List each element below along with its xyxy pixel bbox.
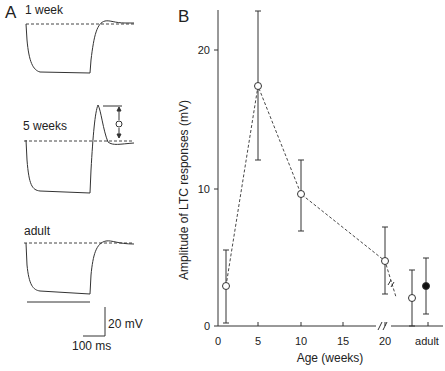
trace-1-week [26, 21, 134, 73]
trace-adult [24, 241, 134, 302]
scale-bar [83, 307, 105, 336]
trace-5-weeks [24, 105, 134, 193]
point-10-weeks [298, 191, 305, 198]
x-tick-labels: 0 5 10 15 20 adult [215, 335, 439, 347]
x-axis-title: Age (weeks) [297, 351, 364, 365]
series-dashed-line [226, 86, 396, 297]
svg-text:20: 20 [198, 44, 210, 56]
svg-text:adult: adult [415, 335, 439, 347]
svg-text:0: 0 [204, 320, 210, 332]
point-23-weeks [409, 295, 416, 302]
svg-text:5: 5 [255, 335, 261, 347]
svg-text:10: 10 [198, 183, 210, 195]
chart-axes [214, 10, 443, 330]
svg-text:0: 0 [215, 335, 221, 347]
svg-text:15: 15 [337, 335, 349, 347]
figure-canvas: B 0 10 20 0 5 10 15 20 adult Age (weeks)… [0, 0, 445, 371]
point-20-weeks [382, 258, 389, 265]
error-bars [223, 11, 429, 326]
point-1-week [223, 283, 230, 290]
panel-b-label: B [178, 7, 189, 26]
y-tick-labels: 0 10 20 [198, 44, 210, 332]
point-5-weeks [255, 83, 262, 90]
svg-text:20: 20 [379, 335, 391, 347]
y-axis-title: Amplitude of LTC responses (mV) [177, 100, 191, 280]
point-adult [423, 283, 430, 290]
svg-text:10: 10 [295, 335, 307, 347]
